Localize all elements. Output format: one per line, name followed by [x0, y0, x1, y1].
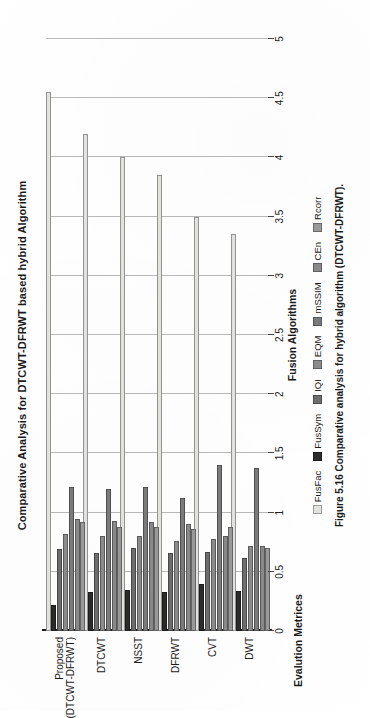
bar-fusfac-proposed-dtcwt-dfrwt: [46, 92, 51, 631]
category-label-nsst: NSST: [133, 637, 144, 664]
bar-eqm-cvt: [211, 539, 216, 631]
legend-swatch-rcorr: [313, 223, 322, 232]
axis-tick-label: 3.5: [274, 210, 285, 224]
legend-swatch-cen: [313, 263, 322, 272]
category-axis-title-text: Fusion Algorithms: [286, 289, 298, 381]
axis-tick-label: 0.5: [274, 565, 285, 579]
bar-eqm-dfrwt: [174, 541, 179, 631]
bar-rcorr-cvt: [228, 527, 233, 631]
category-axis-title: Fusion Algorithms: [286, 39, 298, 631]
bar-mssim-dwt: [254, 468, 259, 631]
legend-item-eqm[interactable]: EQM: [312, 336, 323, 370]
bar-eqm-dtcwt: [100, 536, 105, 631]
legend-item-iqi[interactable]: IQI: [312, 379, 323, 404]
axis-tick-label: 3: [274, 273, 285, 279]
bar-group: DTCWT: [83, 39, 120, 631]
chart-legend: FusFacFusSymIQIEQMmSSIMCEnRcorr: [312, 0, 323, 711]
bar-iqi-nsst: [131, 548, 136, 631]
bar-iqi-cvt: [205, 552, 210, 631]
legend-label-fusfac: FusFac: [312, 471, 323, 503]
legend-swatch-mssim: [313, 317, 322, 326]
legend-label-rcorr: Rcorr: [312, 197, 323, 220]
bar-iqi-dtcwt: [94, 553, 99, 631]
legend-label-fussym: FusSym: [312, 414, 323, 449]
bar-mssim-cvt: [217, 465, 222, 631]
bar-rcorr-proposed-dtcwt-dfrwt: [80, 522, 85, 631]
category-label-dtcwt: DTCWT: [96, 637, 107, 673]
axis-tick-label: 0: [274, 628, 285, 634]
bar-fussym-dwt: [236, 591, 241, 631]
axis-tick-label: 5: [274, 36, 285, 42]
legend-label-mssim: mSSIM: [312, 282, 323, 313]
legend-item-fussym[interactable]: FusSym: [312, 414, 323, 461]
bar-group: NSST: [120, 39, 157, 631]
bar-cen-nsst: [149, 522, 154, 631]
bar-fussym-dtcwt: [88, 592, 93, 631]
bar-group: DWT: [231, 39, 268, 631]
bar-eqm-proposed-dtcwt-dfrwt: [63, 534, 68, 631]
legend-item-fusfac[interactable]: FusFac: [312, 471, 323, 515]
category-label-proposed-dtcwt-dfrwt: Proposed(DTCWT-DFRWT): [54, 637, 76, 718]
bar-iqi-dwt: [242, 558, 247, 631]
bar-eqm-nsst: [137, 536, 142, 631]
bar-mssim-dfrwt: [180, 498, 185, 631]
axis-tick-label: 1.5: [274, 446, 285, 460]
bar-fussym-dfrwt: [162, 592, 167, 631]
bar-group: CVT: [194, 39, 231, 631]
axis-tick-label: 2.5: [274, 328, 285, 342]
legend-label-cen: CEn: [312, 242, 323, 260]
legend-swatch-fusfac: [313, 505, 322, 514]
bar-rcorr-nsst: [154, 527, 159, 631]
bar-cen-dtcwt: [112, 521, 117, 631]
axis-tick-label: 1: [274, 510, 285, 516]
bar-cen-dwt: [260, 546, 265, 631]
category-label-dfrwt: DFRWT: [170, 637, 181, 673]
bar-cen-cvt: [223, 536, 228, 631]
legend-item-cen[interactable]: CEn: [312, 242, 323, 272]
legend-swatch-eqm: [313, 360, 322, 369]
bar-group: Proposed(DTCWT-DFRWT): [46, 39, 83, 631]
bar-mssim-dtcwt: [106, 489, 111, 631]
bar-rcorr-dtcwt: [117, 527, 122, 631]
figure-caption: Figure 5.16 Comparative analysis for hyb…: [334, 0, 345, 711]
plot-area: DWTCVTDFRWTNSSTDTCWTProposed(DTCWT-DFRWT…: [46, 39, 268, 631]
bar-rcorr-dfrwt: [191, 529, 196, 631]
bar-fussym-proposed-dtcwt-dfrwt: [51, 605, 56, 631]
bar-group: DFRWT: [157, 39, 194, 631]
category-label-cvt: CVT: [207, 637, 218, 657]
legend-item-mssim[interactable]: mSSIM: [312, 282, 323, 325]
category-label-dwt: DWT: [244, 637, 255, 660]
bar-cen-proposed-dtcwt-dfrwt: [75, 519, 80, 631]
bar-fussym-nsst: [125, 590, 130, 631]
legend-swatch-fussym: [313, 452, 322, 461]
bar-iqi-dfrwt: [168, 553, 173, 631]
chart-title: Comparative Analysis for DTCWT-DFRWT bas…: [16, 0, 28, 711]
axis-tick-label: 2: [274, 391, 285, 397]
bar-cen-dfrwt: [186, 524, 191, 631]
legend-item-rcorr[interactable]: Rcorr: [312, 197, 323, 232]
bar-eqm-dwt: [248, 546, 253, 631]
bar-mssim-nsst: [143, 487, 148, 631]
bar-fussym-cvt: [199, 584, 204, 631]
legend-label-eqm: EQM: [312, 336, 323, 358]
legend-label-iqi: IQI: [312, 379, 323, 392]
legend-swatch-iqi: [313, 395, 322, 404]
axis-tick-label: 4: [274, 155, 285, 161]
axis-tick-label: 4.5: [274, 91, 285, 105]
bar-mssim-proposed-dtcwt-dfrwt: [69, 487, 74, 631]
bar-iqi-proposed-dtcwt-dfrwt: [57, 549, 62, 631]
